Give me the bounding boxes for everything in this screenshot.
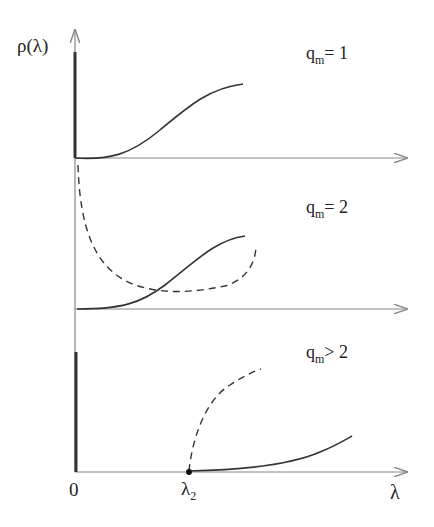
y-axis-label: ρ(λ) (17, 36, 48, 55)
dashed-curve-panel-2 (78, 165, 256, 292)
panel-1-label: qm= 1 (306, 44, 348, 62)
solid-curve-panel-3 (189, 436, 352, 471)
solid-curve-panel-1 (75, 84, 243, 158)
x-tick-zero: 0 (69, 480, 79, 499)
dashed-curve-panel-3 (189, 369, 261, 471)
panel-3-label: qm> 2 (306, 343, 348, 361)
panel-2-label: qm= 2 (306, 198, 348, 216)
spectral-density-diagram (0, 0, 434, 527)
lambda2-point (186, 469, 192, 475)
x-tick-lambda2: λ2 (181, 479, 196, 498)
solid-curve-panel-2 (77, 236, 245, 309)
x-axis-label: λ (390, 482, 400, 502)
